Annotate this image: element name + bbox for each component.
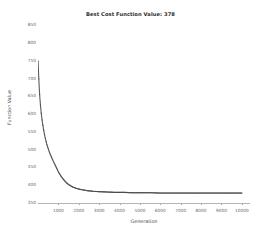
figure-canvas: Best Cost Function Value: 378 3504004505… <box>0 0 261 240</box>
x-tick-label: 3000 <box>88 209 110 213</box>
curve-polyline <box>38 61 242 193</box>
x-tick-label: 8000 <box>190 209 212 213</box>
x-axis-title: Generation <box>38 219 250 224</box>
curve-markers <box>38 60 242 193</box>
x-tick-label: 2000 <box>68 209 90 213</box>
x-tick-label: 4000 <box>109 209 131 213</box>
x-tick-label: 10000 <box>231 209 253 213</box>
x-tick-label: 1000 <box>47 209 69 213</box>
x-tick-label: 7000 <box>170 209 192 213</box>
x-tick-label: 5000 <box>129 209 151 213</box>
y-axis-title: Function Value <box>7 68 12 148</box>
x-tick-label: 9000 <box>210 209 232 213</box>
x-tick-label: 6000 <box>149 209 171 213</box>
convergence-curve <box>38 22 250 203</box>
plot-area <box>38 22 250 203</box>
x-axis-spine <box>38 203 250 204</box>
